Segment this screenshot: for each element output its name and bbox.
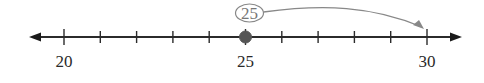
tick-labels: 202530	[56, 52, 436, 71]
tick-label-30: 30	[419, 52, 436, 71]
right-arrowhead-icon	[450, 33, 462, 42]
callout-label: 25	[241, 4, 258, 23]
callout: 25	[236, 4, 264, 23]
jump-arrow	[264, 8, 425, 29]
tick-label-25: 25	[237, 52, 254, 71]
left-arrowhead-icon	[29, 33, 41, 42]
jump-arrow-curve	[264, 8, 423, 27]
number-line-svg: 202530 25	[0, 0, 484, 83]
tick-label-20: 20	[56, 52, 73, 71]
number-line-diagram: 202530 25	[0, 0, 484, 83]
jump-arrowhead-icon	[413, 20, 424, 29]
point-marker	[240, 31, 252, 43]
